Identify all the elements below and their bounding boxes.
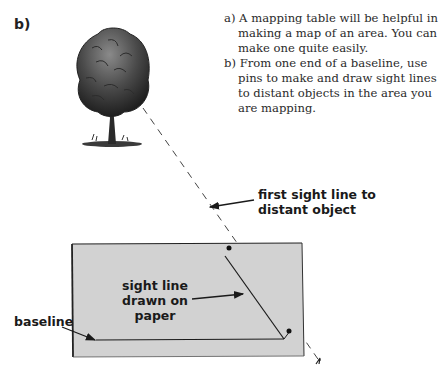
pin-icon — [287, 329, 292, 334]
arrow-first-sight-line — [210, 200, 254, 207]
label-first-sight-line: first sight line to distant object — [258, 187, 376, 217]
caption: a) A mapping table will be helpful in ma… — [224, 11, 442, 116]
line-end-mark — [316, 358, 321, 364]
tree-icon — [77, 28, 149, 147]
label-sight-line-drawn: sight line drawn on paper — [122, 278, 188, 323]
pin-icon — [227, 246, 232, 251]
caption-item-a: a) A mapping table will be helpful in ma… — [224, 11, 442, 56]
panel-label: b) — [14, 16, 30, 32]
caption-item-b: b) From one end of a baseline, use pins … — [224, 56, 442, 116]
label-baseline: baseline — [14, 314, 73, 329]
